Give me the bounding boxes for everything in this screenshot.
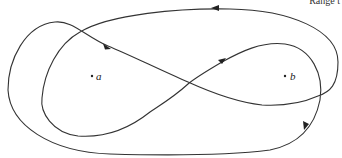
arrow-icon bbox=[211, 5, 219, 11]
point-a-marker bbox=[91, 75, 93, 77]
closed-curve bbox=[8, 9, 338, 155]
closed-curve-diagram: a b bbox=[0, 0, 342, 158]
point-b-marker bbox=[284, 75, 286, 77]
point-b-label: b bbox=[290, 70, 296, 82]
point-a-label: a bbox=[96, 70, 102, 82]
